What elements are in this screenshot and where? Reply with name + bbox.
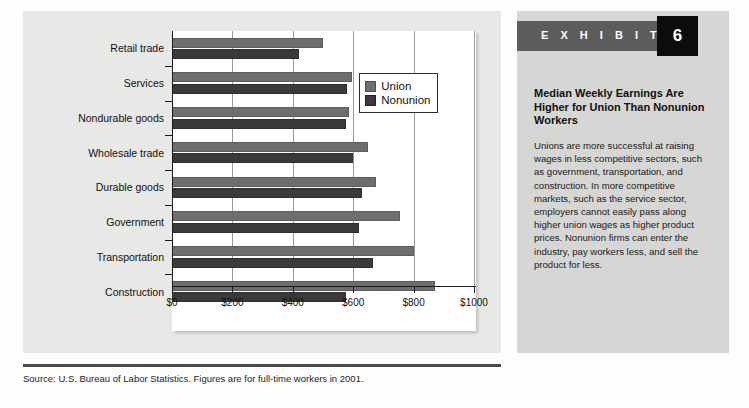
x-tick-mark: [474, 287, 475, 293]
x-tick-mark: [232, 287, 233, 293]
legend-item-nonunion: Nonunion: [365, 94, 430, 106]
x-tick-label: $200: [221, 297, 243, 308]
category-label: Government: [106, 216, 164, 228]
exhibit-sidebar: E X H I B I T 6 Median Weekly Earnings A…: [517, 11, 729, 353]
x-tick-label: $600: [342, 297, 364, 308]
x-tick-label: $400: [282, 297, 304, 308]
bar-nonunion: [172, 223, 359, 233]
exhibit-page: Retail tradeServicesNondurable goodsWhol…: [0, 0, 749, 408]
category-label: Wholesale trade: [88, 147, 164, 159]
bar-union: [172, 246, 414, 256]
category-tick: [165, 101, 172, 102]
exhibit-label: E X H I B I T: [541, 29, 661, 41]
category-label: Transportation: [97, 251, 164, 263]
bar-nonunion: [172, 119, 346, 129]
bar-union: [172, 142, 368, 152]
bar-nonunion: [172, 84, 347, 94]
x-tick-mark: [353, 287, 354, 293]
chart-panel: Retail tradeServicesNondurable goodsWhol…: [23, 11, 501, 353]
x-tick-mark: [414, 287, 415, 293]
chart-plot-area: $0$200$400$600$800$1000 Union Nonunion: [172, 31, 476, 309]
chart-legend: Union Nonunion: [359, 73, 438, 113]
chart-x-axis-line: [172, 286, 476, 287]
legend-label-nonunion: Nonunion: [381, 94, 430, 106]
bar-union: [172, 177, 376, 187]
chart-plot-frame: $0$200$400$600$800$1000 Union Nonunion: [172, 31, 476, 331]
x-tick-mark: [293, 287, 294, 293]
category-label: Construction: [105, 286, 164, 298]
footer-divider: [23, 364, 501, 367]
bar-union: [172, 72, 352, 82]
gridline: [414, 31, 415, 287]
bar-union: [172, 107, 349, 117]
chart-y-axis-line: [172, 31, 173, 287]
bar-nonunion: [172, 188, 362, 198]
x-tick-label: $0: [166, 297, 177, 308]
bar-nonunion: [172, 49, 299, 59]
category-tick: [165, 240, 172, 241]
legend-swatch-union-icon: [365, 81, 376, 92]
bar-union: [172, 211, 400, 221]
category-label: Durable goods: [96, 181, 164, 193]
category-label: Services: [124, 77, 164, 89]
bar-nonunion: [172, 292, 346, 302]
gridline: [474, 31, 475, 287]
exhibit-body-text: Unions are more successful at raising wa…: [534, 139, 706, 271]
bar-nonunion: [172, 153, 353, 163]
x-tick-mark: [172, 287, 173, 293]
source-note: Source: U.S. Bureau of Labor Statistics.…: [23, 373, 364, 384]
legend-swatch-nonunion-icon: [365, 95, 376, 106]
category-label: Nondurable goods: [78, 112, 164, 124]
category-tick: [165, 66, 172, 67]
x-tick-label: $1000: [460, 297, 488, 308]
bar-nonunion: [172, 258, 373, 268]
exhibit-number-box: 6: [657, 16, 698, 56]
category-tick: [165, 274, 172, 275]
legend-item-union: Union: [365, 80, 430, 92]
exhibit-number: 6: [657, 16, 698, 56]
x-tick-label: $800: [402, 297, 424, 308]
bar-union: [172, 38, 323, 48]
category-tick: [165, 170, 172, 171]
category-label: Retail trade: [110, 42, 164, 54]
category-tick: [165, 135, 172, 136]
exhibit-title: Median Weekly Earnings Are Higher for Un…: [534, 87, 714, 128]
category-tick: [165, 205, 172, 206]
legend-label-union: Union: [381, 80, 411, 92]
